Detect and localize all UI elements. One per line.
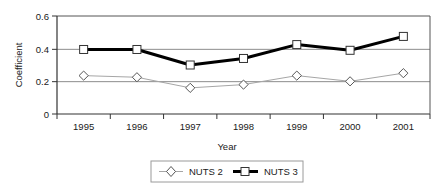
data-point-square-icon [240, 54, 248, 62]
x-tick-label-1995: 1995 [73, 121, 94, 132]
x-tick-label-1997: 1997 [180, 121, 201, 132]
y-axis-title: Coefficient [13, 42, 24, 87]
plot-area-background [57, 16, 430, 114]
y-tick-label-0.4: 0.4 [36, 44, 49, 55]
x-tick-label-1996: 1996 [126, 121, 147, 132]
x-tick-label-1998: 1998 [233, 121, 254, 132]
y-tick-label-0.2: 0.2 [36, 76, 49, 87]
x-tick-label-2000: 2000 [339, 121, 360, 132]
y-axis-ticks [52, 16, 57, 114]
legend-label-nuts-3: NUTS 3 [264, 166, 298, 177]
data-point-square-icon [80, 45, 88, 53]
data-point-square-icon [186, 61, 194, 69]
data-point-square-icon [293, 41, 301, 49]
x-axis-ticks [57, 114, 430, 119]
y-tick-label-0.6: 0.6 [36, 11, 49, 22]
data-point-square-icon [399, 32, 407, 40]
x-tick-label-1999: 1999 [286, 121, 307, 132]
line-chart-figure: 0 0.2 0.4 0.6 1995 1996 1997 1998 1999 2… [0, 0, 447, 187]
data-point-square-icon [133, 45, 141, 53]
chart-legend: NUTS 2 NUTS 3 [151, 161, 303, 182]
chart-canvas: 0 0.2 0.4 0.6 1995 1996 1997 1998 1999 2… [0, 0, 447, 187]
x-tick-label-2001: 2001 [393, 121, 414, 132]
square-icon [241, 168, 249, 176]
y-tick-label-0: 0 [44, 109, 49, 120]
x-axis-title: Year [217, 141, 236, 152]
legend-entry-nuts-3[interactable]: NUTS 3 [233, 166, 298, 177]
legend-label-nuts-2: NUTS 2 [189, 166, 223, 177]
data-point-square-icon [346, 46, 354, 54]
